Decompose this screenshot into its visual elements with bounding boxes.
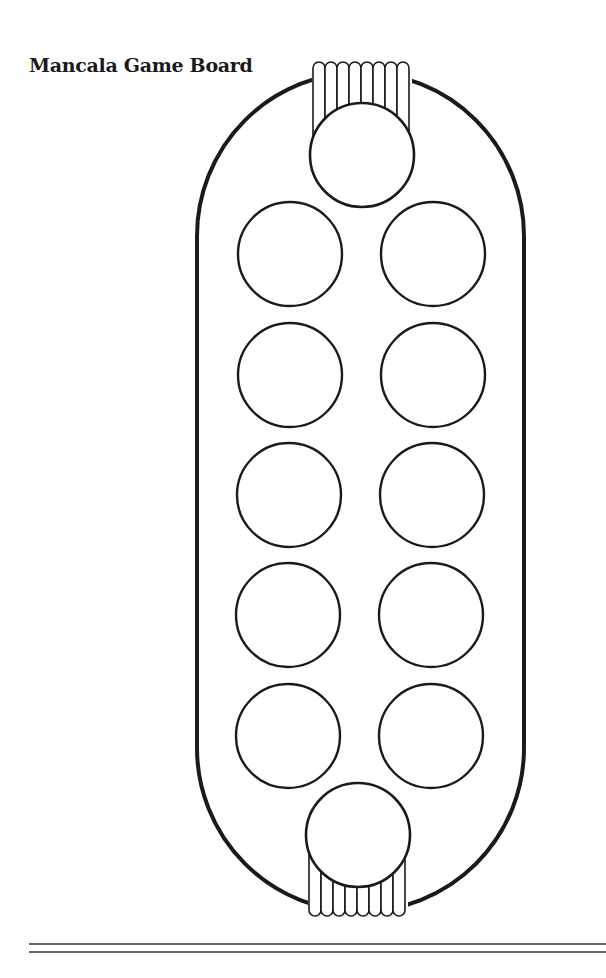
pit-1[interactable] [238,202,342,306]
pit-2[interactable] [238,323,342,427]
store-bottom[interactable] [306,783,410,887]
pit-3[interactable] [237,443,341,547]
mancala-board [0,0,606,978]
footer-double-rule [29,944,606,952]
pit-9[interactable] [379,563,483,667]
pit-10[interactable] [379,684,483,788]
pit-5[interactable] [236,684,340,788]
pit-4[interactable] [236,563,340,667]
pit-7[interactable] [381,323,485,427]
store-top[interactable] [310,103,414,207]
pit-6[interactable] [381,202,485,306]
pit-8[interactable] [380,443,484,547]
